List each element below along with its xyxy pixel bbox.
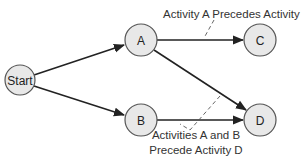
leader-line-a-c [204, 20, 214, 38]
annotation-a-precedes-c: Activity A Precedes Activity C [163, 8, 301, 20]
edge-start-to-b [34, 86, 124, 115]
leader-line-ab-d [180, 96, 220, 130]
node-d-label: D [256, 114, 265, 128]
node-b-label: B [137, 114, 145, 128]
annotation-ab-precede-d-line2: Precede Activity D [149, 144, 242, 156]
edge-a-to-d [154, 50, 246, 110]
node-start-label: Start [7, 74, 33, 88]
node-a: A [125, 24, 157, 56]
node-c: C [244, 24, 276, 56]
precedence-diagram: Start A B C D Activity A Precedes Activi… [0, 0, 301, 160]
node-c-label: C [256, 34, 265, 48]
edge-start-to-a [34, 45, 124, 75]
annotation-ab-precede-d-line1: Activities A and B [152, 129, 241, 141]
node-a-label: A [137, 34, 145, 48]
node-d: D [244, 104, 276, 136]
node-start: Start [5, 65, 35, 95]
